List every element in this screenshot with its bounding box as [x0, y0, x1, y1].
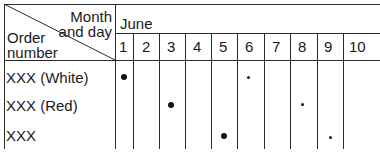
small-dot-marker — [247, 76, 250, 79]
day-divider — [264, 33, 265, 149]
day-divider — [211, 33, 212, 149]
day-header-9: 9 — [324, 39, 332, 55]
row-label-red: XXX (Red) — [6, 98, 78, 114]
day-header-3: 3 — [167, 39, 175, 55]
day-divider — [237, 33, 238, 149]
day-divider — [159, 33, 160, 149]
day-header-1: 1 — [119, 39, 127, 55]
day-header-6: 6 — [245, 39, 253, 55]
month-label: June — [120, 16, 153, 32]
corner-day-label: and day — [59, 24, 112, 40]
day-header-2: 2 — [142, 39, 150, 55]
row-label-plain: XXX — [6, 128, 36, 144]
day-header-7: 7 — [272, 39, 280, 55]
day-header-5: 5 — [219, 39, 227, 55]
large-dot-marker — [221, 133, 227, 139]
small-dot-marker — [301, 103, 304, 106]
day-header-8: 8 — [298, 39, 306, 55]
day-divider — [185, 33, 186, 149]
day-divider — [290, 33, 291, 149]
row-label-white: XXX (White) — [6, 70, 89, 86]
day-divider — [133, 33, 134, 149]
day-divider — [317, 33, 318, 149]
day-divider — [343, 33, 344, 149]
large-dot-marker — [168, 102, 174, 108]
day-header-10: 10 — [349, 39, 366, 55]
day-header-4: 4 — [193, 39, 201, 55]
small-dot-marker — [329, 136, 332, 139]
corner-number-label: number — [7, 45, 58, 61]
month-row-divider — [115, 33, 380, 34]
large-dot-marker — [121, 74, 127, 80]
